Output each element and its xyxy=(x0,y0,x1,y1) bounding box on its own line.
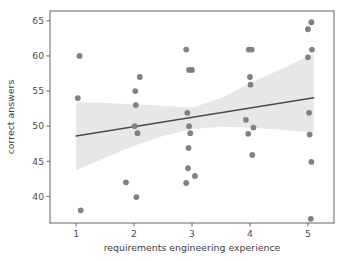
x-tick-label: 3 xyxy=(189,228,195,239)
scatter-point xyxy=(185,165,191,171)
y-tick-label: 45 xyxy=(32,156,44,167)
scatter-point xyxy=(308,159,314,165)
scatter-point xyxy=(249,152,255,158)
scatter-point xyxy=(77,53,83,59)
scatter-point xyxy=(137,74,143,80)
scatter-point xyxy=(189,67,195,73)
y-axis-label: correct answers xyxy=(5,80,16,155)
scatter-point xyxy=(184,110,190,116)
scatter-point xyxy=(308,19,314,25)
confidence-band-area xyxy=(76,54,314,171)
scatter-point xyxy=(247,74,253,80)
scatter-point xyxy=(133,194,139,200)
scatter-point xyxy=(249,47,255,53)
scatter-point xyxy=(251,125,257,131)
scatter-point xyxy=(132,123,138,129)
confidence-band xyxy=(76,54,314,171)
x-tick-label: 4 xyxy=(247,228,253,239)
x-axis-ticks: 12345 xyxy=(73,223,311,239)
y-tick-label: 65 xyxy=(32,15,44,26)
scatter-point xyxy=(305,26,311,32)
x-axis-label: requirements engineering experience xyxy=(104,242,281,253)
plot-canvas: 12345 404550556065 requirements engineer… xyxy=(0,0,351,261)
scatter-point xyxy=(183,47,189,53)
scatter-point xyxy=(308,216,314,222)
x-tick-label: 5 xyxy=(305,228,311,239)
scatter-point xyxy=(248,82,254,88)
y-tick-label: 50 xyxy=(32,120,44,131)
scatter-point xyxy=(132,88,138,94)
y-tick-label: 55 xyxy=(32,85,44,96)
y-tick-label: 40 xyxy=(32,191,44,202)
scatter-point xyxy=(123,179,129,185)
scatter-point xyxy=(307,132,313,138)
scatter-point xyxy=(133,102,139,108)
y-axis-ticks: 404550556065 xyxy=(32,15,50,201)
scatter-plot-figure: 12345 404550556065 requirements engineer… xyxy=(0,0,351,261)
x-tick-label: 2 xyxy=(131,228,137,239)
scatter-point xyxy=(245,131,251,137)
scatter-point xyxy=(186,145,192,151)
scatter-point xyxy=(243,117,249,123)
scatter-point xyxy=(135,130,141,136)
scatter-point xyxy=(306,110,312,116)
scatter-point xyxy=(192,173,198,179)
scatter-point xyxy=(183,180,189,186)
x-tick-label: 1 xyxy=(73,228,79,239)
scatter-point xyxy=(75,95,81,101)
scatter-point xyxy=(305,54,311,60)
scatter-point xyxy=(186,123,192,129)
scatter-point xyxy=(78,207,84,213)
scatter-point xyxy=(309,47,315,53)
y-tick-label: 60 xyxy=(32,50,44,61)
scatter-point xyxy=(187,130,193,136)
